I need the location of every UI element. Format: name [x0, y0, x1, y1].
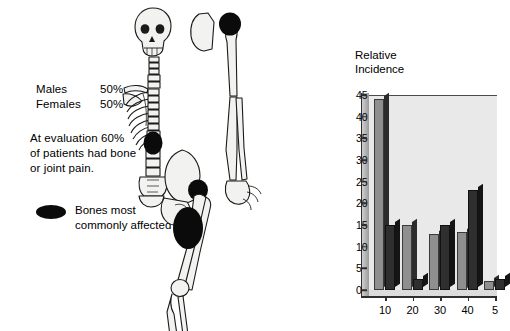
- bar-series-light-40: [457, 232, 467, 291]
- y-tick-label-5: 5: [356, 262, 360, 274]
- bar-series-light-30: [429, 234, 439, 290]
- x-tick-mark-30: [440, 296, 442, 301]
- y-tick-label-25: 25: [356, 176, 360, 188]
- chart-title-line-2: Incidence: [355, 62, 404, 76]
- bar-series-dark-30: [440, 225, 450, 290]
- y-tick-label-45: 45: [356, 89, 360, 101]
- y-tick-label-40: 40: [356, 111, 360, 123]
- bar-face: [484, 281, 494, 290]
- x-tick-mark-20: [413, 296, 415, 301]
- x-tick-label-50: 5: [492, 304, 498, 316]
- bar-face: [374, 99, 384, 290]
- y-tick-mark-10: [362, 246, 367, 248]
- y-tick-mark-20: [362, 203, 367, 205]
- x-tick-label-20: 20: [406, 304, 418, 316]
- y-tick-label-30: 30: [356, 154, 360, 166]
- x-tick-mark-40: [468, 296, 470, 301]
- bar-face: [385, 225, 395, 290]
- distal-femur-marker-icon: [173, 207, 203, 249]
- y-tick-mark-5: [362, 268, 367, 270]
- y-tick-mark-30: [362, 159, 367, 161]
- y-tick-label-10: 10: [356, 241, 360, 253]
- proximal-humerus-marker-icon: [219, 13, 241, 36]
- bar-series-light-10: [374, 99, 384, 290]
- bar-face: [402, 225, 412, 290]
- bar-series-dark-20: [413, 279, 423, 290]
- skull-part: [135, 8, 171, 56]
- y-axis: [361, 93, 369, 296]
- bar-series-light-20: [402, 225, 412, 290]
- y-tick-label-0: 0: [356, 284, 360, 296]
- bar-side: [478, 184, 483, 287]
- x-axis: [361, 296, 497, 298]
- y-tick-mark-0: [362, 289, 367, 291]
- bar-face: [468, 190, 478, 290]
- ulna-part: [236, 98, 247, 180]
- plot-area: 051015202530354045 102030405: [330, 89, 497, 331]
- bar-series-dark-10: [385, 225, 395, 290]
- bar-face: [440, 225, 450, 290]
- x-tick-mark-50: [495, 296, 497, 301]
- bar-face: [495, 279, 505, 290]
- bar-series-dark-50: [495, 279, 505, 290]
- bar-side: [412, 219, 417, 287]
- radius-part: [226, 97, 237, 180]
- bar-face: [413, 279, 423, 290]
- patella-part: [171, 280, 189, 297]
- bar-side: [505, 273, 510, 287]
- lumbar-spine-marker-icon: [144, 132, 163, 155]
- bar-face: [429, 234, 439, 290]
- relative-incidence-chart: Relative Incidence 051015202530354045 10…: [330, 42, 497, 331]
- bar-side: [450, 219, 455, 287]
- bar-side: [395, 219, 400, 287]
- x-tick-mark-10: [385, 296, 387, 301]
- skeleton-illustration: [120, 0, 295, 331]
- chart-title: Relative Incidence: [355, 48, 404, 76]
- y-tick-mark-35: [362, 138, 367, 140]
- y-tick-label-20: 20: [356, 197, 360, 209]
- filled-ellipse-marker-icon: [36, 205, 66, 219]
- x-tick-label-40: 40: [461, 304, 473, 316]
- y-tick-mark-15: [362, 224, 367, 226]
- y-tick-label-15: 15: [356, 219, 360, 231]
- bar-face: [457, 232, 467, 291]
- hand-part: [225, 181, 261, 210]
- y-tick-mark-40: [362, 116, 367, 118]
- cervical-spine-part: [148, 57, 160, 88]
- y-tick-mark-45: [362, 94, 367, 96]
- y-tick-label-35: 35: [356, 132, 360, 144]
- bar-series-light-50: [484, 281, 494, 290]
- bar-series-dark-40: [468, 190, 478, 290]
- y-tick-mark-25: [362, 181, 367, 183]
- chart-title-line-1: Relative: [355, 48, 404, 62]
- x-tick-label-10: 10: [379, 304, 391, 316]
- x-tick-label-30: 30: [434, 304, 446, 316]
- stat-label-males: Males: [36, 82, 100, 97]
- stat-label-females: Females: [36, 97, 100, 112]
- fibula-part: [178, 296, 190, 331]
